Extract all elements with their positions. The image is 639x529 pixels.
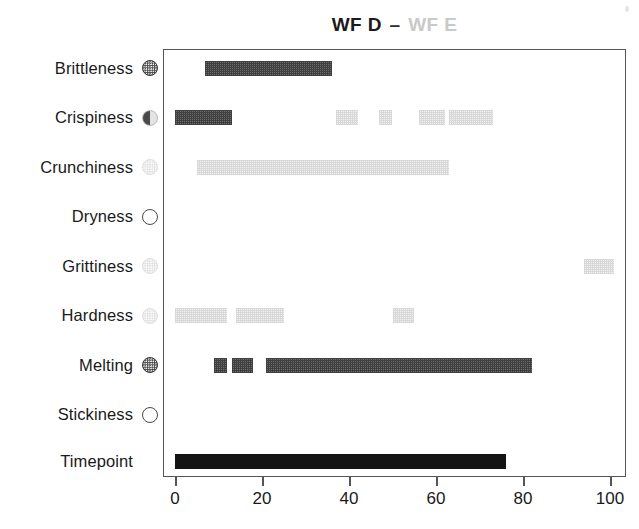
x-axis-tick-label: 20 — [232, 489, 292, 509]
light-dotted-circle-icon — [142, 159, 158, 175]
light-dotted-circle-icon — [142, 258, 158, 274]
title-series-wf-d: WF D — [332, 14, 382, 35]
y-axis-category-hardness: Hardness — [0, 305, 158, 327]
x-axis-tick-label: 0 — [145, 489, 205, 509]
category-label: Melting — [79, 356, 133, 375]
category-label: Hardness — [62, 306, 133, 325]
bar-segment-grittiness-0 — [584, 259, 614, 274]
category-label: Crispiness — [55, 108, 133, 127]
bar-segment-crunchiness-0 — [197, 160, 449, 175]
open-circle-icon — [142, 407, 158, 423]
x-axis-tick-label: 80 — [493, 489, 553, 509]
x-axis-tick-100 — [610, 477, 612, 486]
bar-segment-crispiness-2 — [379, 110, 392, 125]
category-label: Timepoint — [60, 452, 133, 471]
bar-segment-crispiness-0 — [175, 110, 232, 125]
dark-dotted-circle-icon — [142, 60, 158, 76]
x-axis-tick-label: 40 — [319, 489, 379, 509]
bar-segment-melting-2 — [266, 358, 531, 373]
y-axis-category-dryness: Dryness — [0, 206, 158, 228]
y-axis-category-melting: Melting — [0, 354, 158, 376]
light-dotted-circle-icon — [142, 308, 158, 324]
bar-segment-crispiness-1 — [336, 110, 358, 125]
y-axis-category-stickiness: Stickiness — [0, 404, 158, 426]
scan-artifact-speck — [625, 6, 629, 12]
title-series-wf-e: WF E — [408, 14, 457, 35]
x-axis-tick-label: 60 — [406, 489, 466, 509]
bar-segment-hardness-0 — [175, 308, 227, 323]
open-circle-icon — [142, 209, 158, 225]
bar-segment-melting-1 — [232, 358, 254, 373]
bar-segment-melting-0 — [214, 358, 227, 373]
y-axis-category-grittiness: Grittiness — [0, 255, 158, 277]
x-axis-tick-label: 100 — [580, 489, 639, 509]
bar-segment-timepoint-0 — [175, 454, 506, 469]
chart-container: WF D – WF E BrittlenessCrispinessCrunchi… — [0, 0, 639, 529]
x-axis-tick-0 — [175, 477, 177, 486]
x-axis-tick-80 — [523, 477, 525, 486]
title-dash: – — [388, 14, 403, 35]
half-dark-circle-icon — [142, 110, 158, 126]
x-axis-tick-60 — [436, 477, 438, 486]
no-marker-icon — [142, 453, 158, 469]
plot-area — [163, 49, 626, 477]
chart-title: WF D – WF E — [163, 14, 626, 36]
category-label: Crunchiness — [40, 158, 133, 177]
y-axis-category-crunchiness: Crunchiness — [0, 156, 158, 178]
y-axis-category-brittleness: Brittleness — [0, 57, 158, 79]
y-axis-category-timepoint: Timepoint — [0, 450, 158, 472]
y-axis-category-crispiness: Crispiness — [0, 107, 158, 129]
dark-dotted-circle-icon — [142, 357, 158, 373]
bar-segment-brittleness-0 — [205, 61, 331, 76]
category-label: Brittleness — [55, 59, 133, 78]
bar-segment-crispiness-4 — [449, 110, 493, 125]
x-axis-tick-20 — [262, 477, 264, 486]
category-label: Dryness — [72, 207, 133, 226]
category-label: Stickiness — [58, 405, 133, 424]
bar-segment-hardness-2 — [393, 308, 415, 323]
x-axis-tick-40 — [349, 477, 351, 486]
category-label: Grittiness — [62, 257, 133, 276]
bar-segment-hardness-1 — [236, 308, 284, 323]
bar-segment-crispiness-3 — [419, 110, 445, 125]
